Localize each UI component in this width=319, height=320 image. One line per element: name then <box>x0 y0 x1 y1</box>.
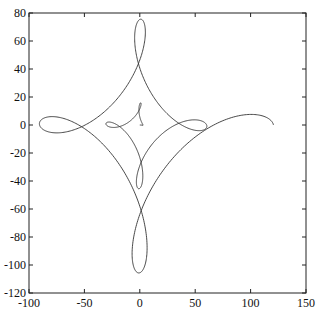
axes-frame <box>29 13 306 293</box>
y-axis: -120-100-80-60-40-20020406080 <box>4 6 306 300</box>
x-tick-label: 0 <box>137 296 143 310</box>
chart: -100-50050100150 -120-100-80-60-40-20020… <box>0 0 319 320</box>
y-tick-label: -60 <box>10 202 26 216</box>
y-tick-label: 80 <box>14 6 26 20</box>
y-tick-label: -20 <box>10 146 26 160</box>
plot-border <box>29 13 306 293</box>
y-tick-label: 40 <box>14 62 26 76</box>
x-tick-label: 50 <box>189 296 201 310</box>
x-tick-label: -50 <box>76 296 92 310</box>
y-tick-label: 20 <box>14 90 26 104</box>
y-tick-label: -40 <box>10 174 26 188</box>
y-tick-label: -80 <box>10 230 26 244</box>
y-tick-label: -120 <box>4 286 26 300</box>
y-tick-label: -100 <box>4 258 26 272</box>
y-tick-label: 60 <box>14 34 26 48</box>
data-series-curve <box>39 19 273 273</box>
x-tick-label: 150 <box>297 296 315 310</box>
y-tick-label: 0 <box>20 118 26 132</box>
x-tick-label: 100 <box>242 296 260 310</box>
x-axis: -100-50050100150 <box>18 13 315 310</box>
